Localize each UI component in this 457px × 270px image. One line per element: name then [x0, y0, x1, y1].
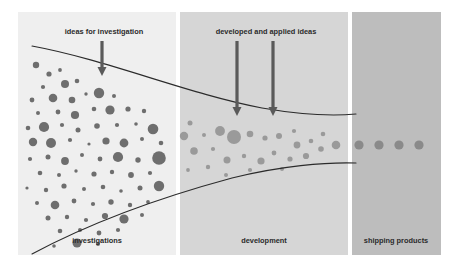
- panel-shipping-products: [352, 12, 441, 255]
- idea-dot-development: [262, 135, 267, 140]
- idea-dot-investigations: [91, 202, 95, 206]
- idea-dot-investigations: [98, 157, 103, 162]
- idea-dot-investigations: [148, 171, 152, 175]
- idea-dot-investigations: [115, 123, 119, 127]
- idea-dot-investigations: [38, 171, 43, 176]
- idea-dot-investigations: [125, 106, 130, 111]
- idea-dot-development: [257, 157, 264, 164]
- idea-dot-investigations: [112, 94, 116, 98]
- idea-dot-investigations: [128, 203, 132, 207]
- idea-dot-development: [188, 121, 193, 126]
- idea-dot-investigations: [94, 88, 104, 98]
- idea-dot-development: [303, 153, 309, 159]
- diagram-svg: ideas for investigationdeveloped and app…: [18, 12, 441, 255]
- idea-dot-investigations: [46, 71, 51, 76]
- idea-dot-development: [202, 133, 206, 137]
- idea-dot-investigations: [120, 139, 129, 148]
- annotation-label-ideas-for-investigation: ideas for investigation: [65, 27, 144, 36]
- idea-dot-investigations: [33, 62, 39, 68]
- idea-dot-investigations: [128, 172, 134, 178]
- idea-dot-investigations: [61, 183, 66, 188]
- idea-dot-investigations: [110, 170, 114, 174]
- idea-dot-development: [248, 168, 252, 172]
- idea-dot-investigations: [72, 199, 77, 204]
- panel-label-shipping-products: shipping products: [364, 236, 428, 245]
- idea-dot-development: [294, 142, 301, 149]
- idea-dot-development: [332, 141, 341, 150]
- idea-dot-development: [224, 173, 228, 177]
- idea-dot-investigations: [25, 186, 28, 189]
- idea-dot-development: [186, 168, 190, 172]
- idea-dot-investigations: [108, 199, 113, 204]
- idea-dot-development: [180, 132, 188, 140]
- idea-dot-investigations: [68, 138, 72, 142]
- idea-dot-investigations: [140, 213, 144, 217]
- idea-dot-investigations: [134, 122, 138, 126]
- idea-dot-development: [247, 131, 254, 138]
- idea-dot-investigations: [87, 142, 90, 145]
- idea-dot-investigations: [56, 110, 61, 115]
- idea-dot-development: [190, 147, 198, 155]
- panel-label-investigations: investigations: [72, 236, 122, 245]
- arrow-shaft-ideas-for-investigation-0: [100, 41, 103, 67]
- idea-dot-investigations: [92, 107, 97, 112]
- idea-dot-investigations: [138, 186, 143, 191]
- idea-dot-development: [318, 146, 324, 152]
- idea-dot-investigations: [58, 68, 62, 72]
- idea-dot-development: [321, 132, 326, 137]
- idea-dot-development: [287, 156, 292, 161]
- idea-dot-shipping: [354, 140, 363, 149]
- idea-dot-investigations: [84, 218, 88, 222]
- idea-dot-investigations: [116, 228, 120, 232]
- figure-canvas: ideas for investigationdeveloped and app…: [0, 0, 457, 270]
- idea-dot-investigations: [102, 213, 108, 219]
- idea-dot-investigations: [97, 231, 102, 236]
- idea-dot-development: [292, 129, 296, 133]
- idea-dot-investigations: [140, 137, 144, 141]
- idea-dot-development: [227, 130, 241, 144]
- idea-dot-development: [211, 147, 215, 151]
- idea-dot-investigations: [57, 173, 61, 177]
- idea-dot-investigations: [119, 214, 128, 223]
- idea-dot-investigations: [142, 109, 146, 113]
- idea-dot-investigations: [119, 189, 123, 193]
- idea-dot-investigations: [74, 169, 77, 172]
- funnel-diagram: ideas for investigationdeveloped and app…: [18, 12, 441, 255]
- idea-dot-investigations: [28, 157, 32, 161]
- idea-dot-investigations: [30, 98, 35, 103]
- idea-dot-investigations: [29, 138, 37, 146]
- idea-dot-investigations: [102, 137, 109, 144]
- idea-dot-investigations: [76, 128, 81, 133]
- idea-dot-investigations: [60, 123, 64, 127]
- idea-dot-investigations: [26, 126, 31, 131]
- idea-dot-development: [215, 126, 225, 136]
- idea-dot-investigations: [46, 138, 56, 148]
- idea-dot-investigations: [35, 201, 39, 205]
- idea-dot-investigations: [135, 157, 140, 162]
- idea-dot-investigations: [61, 80, 69, 88]
- idea-dot-investigations: [41, 85, 45, 89]
- idea-dot-investigations: [105, 105, 114, 114]
- arrow-shaft-developed-and-applied-ideas-1: [271, 41, 274, 107]
- idea-dot-investigations: [94, 123, 100, 129]
- idea-dot-investigations: [46, 155, 51, 160]
- idea-dot-development: [272, 151, 277, 156]
- idea-dot-shipping: [374, 140, 383, 149]
- idea-dot-investigations: [101, 185, 106, 190]
- idea-dot-investigations: [80, 153, 84, 157]
- idea-dot-development: [242, 154, 246, 158]
- idea-dot-development: [276, 133, 282, 139]
- arrow-shaft-developed-and-applied-ideas-0: [235, 41, 238, 107]
- idea-dot-investigations: [148, 124, 159, 135]
- idea-dot-investigations: [84, 92, 87, 95]
- idea-dot-investigations: [152, 151, 166, 165]
- idea-dot-investigations: [71, 111, 79, 119]
- idea-dot-investigations: [159, 141, 164, 146]
- idea-dot-investigations: [61, 157, 69, 165]
- idea-dot-development: [309, 139, 314, 144]
- idea-dot-investigations: [113, 152, 123, 162]
- idea-dot-investigations: [65, 215, 69, 219]
- idea-dot-investigations: [91, 171, 96, 176]
- panel-label-development: development: [241, 236, 287, 245]
- idea-dot-investigations: [51, 201, 60, 210]
